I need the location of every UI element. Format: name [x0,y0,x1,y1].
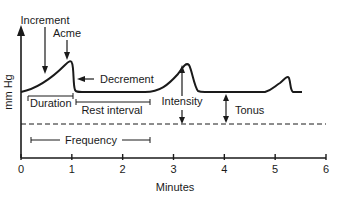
y-axis-arrow-icon [17,25,25,36]
x-tick-label: 6 [323,163,329,175]
intensity-label: Intensity [162,95,203,107]
acme-label: Acme [53,27,81,39]
y-axis-label: mm Hg [2,74,14,109]
x-tick-label: 1 [69,163,75,175]
increment-arrowhead-icon [42,66,48,74]
frequency-label: Frequency [65,134,117,146]
rest-interval-label: Rest interval [81,104,142,116]
increment-label: Increment [21,14,70,26]
decrement-arrowhead-icon [77,76,85,82]
tonus-arrowhead-down-icon [223,116,229,123]
tonus-label: Tonus [235,104,265,116]
contraction-diagram: mm Hg 0123456 Minutes Increment Acme Dec… [0,0,337,201]
intensity-arrowhead-down-icon [179,117,185,124]
x-tick-label: 5 [272,163,278,175]
tonus-arrowhead-up-icon [223,94,229,101]
x-ticks: 0123456 [18,154,329,175]
x-tick-label: 3 [170,163,176,175]
x-tick-label: 2 [120,163,126,175]
duration-label: Duration [30,97,72,109]
decrement-label: Decrement [100,73,154,85]
x-axis-label: Minutes [156,181,195,193]
contraction-waveform [21,61,302,92]
acme-arrowhead-icon [64,52,70,60]
x-tick-label: 4 [221,163,227,175]
x-tick-label: 0 [18,163,24,175]
